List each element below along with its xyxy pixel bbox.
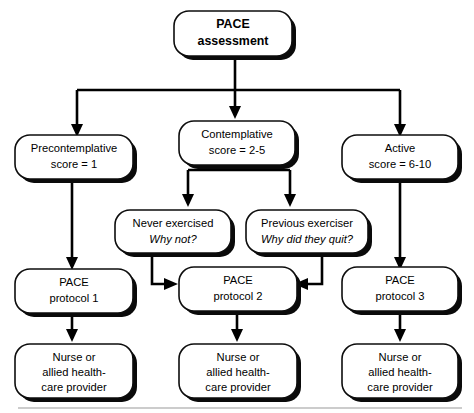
node-pace-assessment[interactable]: PACE assessment — [174, 11, 296, 60]
node-line-2: allied health- — [206, 366, 270, 378]
arrowhead-protocol2-left — [164, 278, 178, 290]
node-line-1: Contemplative — [201, 128, 273, 140]
node-pace-protocol-3[interactable]: PACE protocol 3 — [342, 267, 462, 315]
node-line-3: care provider — [41, 381, 107, 393]
node-line-2: allied health- — [42, 366, 106, 378]
node-line-1: PACE — [59, 276, 89, 288]
arrowhead-never-exercised — [182, 194, 194, 207]
node-never-exercised[interactable]: Never exercised Why not? — [115, 210, 235, 257]
node-line-2: Why not? — [149, 233, 197, 245]
node-line-2: Why did they quit? — [261, 233, 354, 245]
arrowhead-provider3 — [394, 329, 406, 342]
node-line-3: care provider — [205, 381, 271, 393]
node-provider-3[interactable]: Nurse or allied health- care provider — [342, 344, 462, 402]
node-line-2: protocol 1 — [49, 292, 98, 304]
node-line-2: allied health- — [368, 366, 432, 378]
node-pace-protocol-1[interactable]: PACE protocol 1 — [15, 269, 137, 317]
arrowhead-contemplative — [229, 106, 241, 119]
node-line-2: score = 6-10 — [369, 158, 432, 170]
node-pace-protocol-2[interactable]: PACE protocol 2 — [179, 267, 301, 315]
node-active[interactable]: Active score = 6-10 — [342, 135, 462, 183]
pace-flowchart: PACE assessment Precontemplative score =… — [0, 0, 474, 413]
node-line-1: Nurse or — [379, 351, 422, 363]
arrowhead-provider2 — [231, 329, 243, 342]
node-line-2: score = 1 — [51, 158, 97, 170]
node-line-1: Nurse or — [53, 351, 96, 363]
node-line-1: Nurse or — [217, 351, 260, 363]
node-previous-exerciser[interactable]: Previous exerciser Why did they quit? — [246, 210, 372, 257]
node-line-2: score = 2-5 — [209, 144, 265, 156]
node-line-2: assessment — [198, 34, 269, 48]
arrowhead-protocol1 — [66, 257, 78, 270]
node-line-3: care provider — [367, 381, 433, 393]
node-line-1: Active — [385, 142, 415, 154]
flowchart-page: PACE assessment Precontemplative score =… — [0, 0, 474, 413]
node-line-1: PACE — [216, 17, 250, 31]
node-line-1: PACE — [223, 274, 253, 286]
node-provider-1[interactable]: Nurse or allied health- care provider — [15, 344, 137, 402]
node-line-2: protocol 2 — [213, 290, 262, 302]
node-provider-2[interactable]: Nurse or allied health- care provider — [179, 344, 301, 402]
node-line-2: protocol 3 — [375, 290, 424, 302]
node-contemplative[interactable]: Contemplative score = 2-5 — [179, 121, 299, 169]
arrowhead-previous-exerciser — [284, 194, 296, 207]
arrowhead-provider1 — [66, 329, 78, 342]
node-line-1: Previous exerciser — [261, 217, 353, 229]
node-line-1: Never exercised — [133, 217, 214, 229]
connector-previous-exerciser-to-protocol2 — [307, 255, 322, 284]
node-line-1: PACE — [385, 274, 415, 286]
node-line-1: Precontemplative — [31, 142, 117, 154]
node-precontemplative[interactable]: Precontemplative score = 1 — [15, 135, 137, 183]
